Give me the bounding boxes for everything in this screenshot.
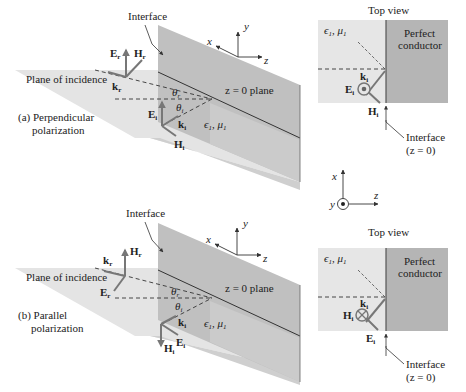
interface-label2-top-a: (z = 0)	[406, 144, 436, 157]
z-axis-label-b: z	[262, 252, 268, 264]
plane-of-incidence-label-b: Plane of incidence	[26, 271, 107, 283]
caption-line2-b: polarization	[31, 322, 84, 334]
interface-label-b: Interface	[126, 207, 165, 219]
interface-label1-top-b: Interface	[406, 358, 445, 370]
figure-canvas: Interface y x z z = 0 plane Plane of inc…	[0, 0, 466, 392]
conductor-label2-a: conductor	[398, 39, 442, 51]
dot-symbol-a	[362, 87, 367, 92]
z-axis-label-top: z	[373, 189, 379, 201]
y-axis-label-b: y	[242, 217, 248, 229]
Hr-label-b: Hr	[130, 245, 142, 259]
x-axis-label-b: x	[205, 233, 211, 245]
caption-line2-a: polarization	[32, 124, 85, 136]
field-side-label-top-a: Hi	[368, 105, 379, 119]
top-view-a: Top view ϵ1, μ1 Perfect conductor ki Ei …	[318, 4, 448, 157]
caption-line1-b: (b) Parallel	[18, 309, 67, 322]
interface-label1-top-a: Interface	[406, 131, 445, 143]
panel-a-3d: Interface y x z z = 0 plane Plane of inc…	[15, 10, 300, 190]
top-view-title-b: Top view	[368, 226, 409, 238]
conductor-label1-a: Perfect	[404, 27, 435, 39]
top-view-title-a: Top view	[368, 4, 409, 16]
top-view-axes: x y z	[329, 170, 379, 210]
caption-line1-a: (a) Perpendicular	[18, 111, 94, 124]
interface-leader-top-b	[386, 346, 404, 364]
conductor-label2-b: conductor	[398, 267, 442, 279]
interface-leader-top-a	[386, 120, 404, 138]
Er-label-a: Er	[110, 47, 120, 61]
field-side-label-top-b: Ei	[366, 332, 375, 346]
top-view-b: Top view ϵ1, μ1 Perfect conductor ki Hi …	[318, 226, 448, 384]
interface-label-a: Interface	[128, 10, 167, 22]
z0-plane-label-b: z = 0 plane	[225, 282, 274, 294]
y-dot	[341, 202, 345, 206]
interface-label2-top-b: (z = 0)	[406, 371, 436, 384]
panel-b-3d: Interface y x z z = 0 plane Plane of inc…	[15, 207, 300, 385]
y-axis-label-a: y	[243, 20, 249, 32]
z0-plane-label-a: z = 0 plane	[225, 84, 274, 96]
x-axis-label-a: x	[206, 35, 212, 47]
y-axis-label-top: y	[329, 198, 335, 210]
x-axis-label-top: x	[331, 170, 337, 182]
Hi-label-b: Hi	[164, 342, 175, 356]
kr-label-b: kr	[103, 254, 112, 268]
Hr-label-a: Hr	[134, 47, 146, 61]
conductor-label1-b: Perfect	[404, 255, 435, 267]
plane-of-incidence-label-a: Plane of incidence	[26, 73, 107, 85]
z-axis-label-a: z	[263, 54, 269, 66]
